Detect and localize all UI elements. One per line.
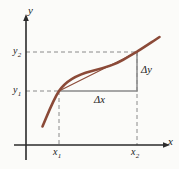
delta-y-label: Δy (141, 65, 152, 76)
x-axis-label: x (168, 136, 173, 147)
x2-tick-base: x (131, 146, 135, 157)
x1-tick-label: x1 (53, 147, 61, 157)
y-axis-label: y (28, 5, 33, 16)
y1-tick-subscript: 1 (18, 90, 22, 98)
y1-tick-base: y (13, 84, 17, 95)
dashed-guides (26, 52, 137, 145)
function-curve (43, 37, 160, 127)
secant-line-figure: y x y2 y1 x1 x2 Δx Δy (0, 0, 179, 169)
y1-tick-label: y1 (13, 85, 21, 95)
y2-tick-subscript: 2 (18, 51, 22, 59)
x1-tick-base: x (53, 146, 57, 157)
x1-tick-subscript: 1 (58, 152, 62, 160)
delta-x-label: Δx (94, 95, 105, 106)
y2-tick-base: y (13, 45, 17, 56)
axes (14, 14, 170, 160)
figure-canvas (0, 0, 179, 169)
y2-tick-label: y2 (13, 46, 21, 56)
x2-tick-label: x2 (131, 147, 139, 157)
x2-tick-subscript: 2 (136, 152, 140, 160)
